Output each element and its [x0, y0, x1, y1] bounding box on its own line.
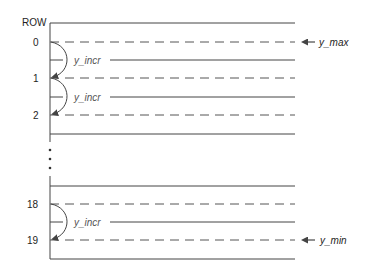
- y-min-label: y_min: [319, 235, 347, 246]
- row-label-2: 2: [33, 110, 39, 121]
- row-label-19: 19: [27, 235, 39, 246]
- row-center-lines: [50, 42, 295, 240]
- row-diagram: ROW 0 1 2 18 19 y_incr y_incr: [0, 0, 368, 275]
- incr-arrow-icon: [51, 78, 67, 114]
- incr-label: y_incr: [73, 92, 101, 103]
- row-header-label: ROW: [22, 17, 47, 28]
- row-label-1: 1: [33, 73, 39, 84]
- row-label-18: 18: [27, 199, 39, 210]
- incr-label: y_incr: [73, 55, 101, 66]
- incr-label: y_incr: [73, 217, 101, 228]
- row-label-0: 0: [33, 37, 39, 48]
- ellipsis-dots: [49, 149, 52, 170]
- y-max-label: y_max: [318, 37, 349, 48]
